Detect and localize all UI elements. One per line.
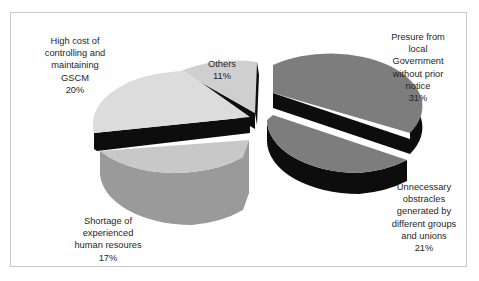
pie-slice-shortage [100, 140, 249, 225]
chart-frame: High cost of controlling and maintaining… [10, 12, 467, 267]
pie-label-others: Others 11% [187, 58, 257, 82]
pie-label-pressure: Presure from local Government without pr… [363, 31, 473, 104]
pie-label-high-cost: High cost of controlling and maintaining… [19, 35, 131, 96]
pie-label-obstacles: Unnecessary obstracles generated by diff… [371, 181, 477, 254]
pie-label-shortage: Shortage of experienced human resoures 1… [45, 215, 171, 264]
